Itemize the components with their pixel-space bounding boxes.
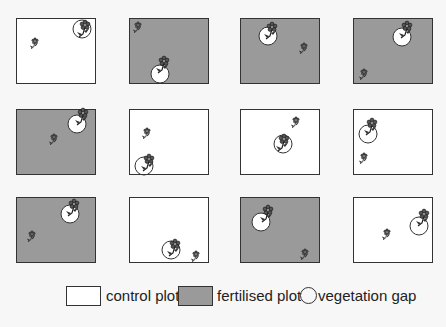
flower-icon xyxy=(27,231,35,242)
flower-icon xyxy=(77,20,90,37)
control-plot-r2c3 xyxy=(353,197,433,263)
vegetation-gap-icon xyxy=(68,115,86,133)
fertilised-plot-r0c3 xyxy=(353,18,433,84)
flower-icon xyxy=(142,128,150,139)
legend-vegetation-gap-icon xyxy=(300,287,317,304)
flower-icon xyxy=(364,118,377,135)
legend-control-label: control plot xyxy=(106,287,179,304)
control-plot-r1c3 xyxy=(353,109,433,175)
fertilised-plot-r2c2 xyxy=(240,197,320,263)
flower-icon xyxy=(359,153,367,164)
fertilised-plot-r1c0 xyxy=(16,109,96,175)
flower-icon xyxy=(299,43,307,54)
fertilised-plot-r0c2 xyxy=(240,18,320,84)
fertilised-plot-r2c0 xyxy=(16,197,96,263)
flower-icon xyxy=(133,22,141,33)
control-plot-r1c2 xyxy=(240,109,320,175)
control-plot-r1c1 xyxy=(129,109,209,175)
flower-icon xyxy=(382,229,390,240)
legend-fertilised-label: fertilised plot xyxy=(217,287,301,304)
flower-icon xyxy=(359,69,367,80)
control-plot-r0c0 xyxy=(16,18,96,84)
legend: control plot fertilised plot vegetation … xyxy=(0,285,446,307)
vegetation-gap-icon xyxy=(151,65,169,83)
flower-icon xyxy=(191,251,199,262)
flower-icon xyxy=(291,117,299,128)
fertilised-plot-r0c1 xyxy=(129,18,209,84)
flower-icon xyxy=(300,249,308,260)
legend-gap-label: vegetation gap xyxy=(318,287,416,304)
legend-fertilised-swatch xyxy=(178,286,213,306)
flower-icon xyxy=(30,38,38,49)
legend-control-swatch xyxy=(66,286,101,306)
flower-icon xyxy=(49,134,57,145)
control-plot-r2c1 xyxy=(129,197,209,263)
